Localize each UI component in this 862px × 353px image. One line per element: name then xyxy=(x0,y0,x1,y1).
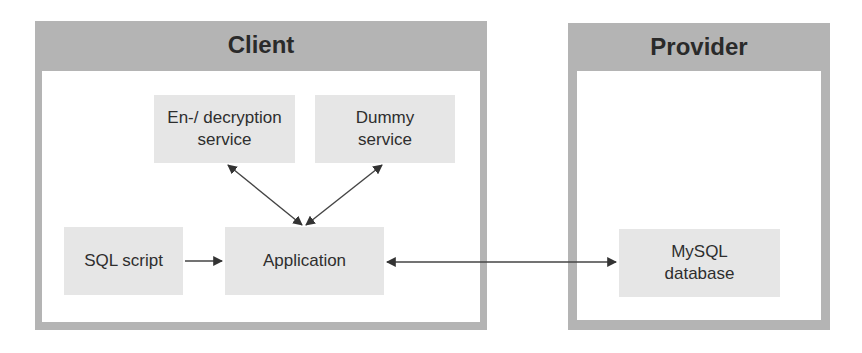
edges-layer xyxy=(0,0,862,353)
edge-encryption-application xyxy=(228,165,302,225)
edge-dummy-application xyxy=(306,165,382,225)
